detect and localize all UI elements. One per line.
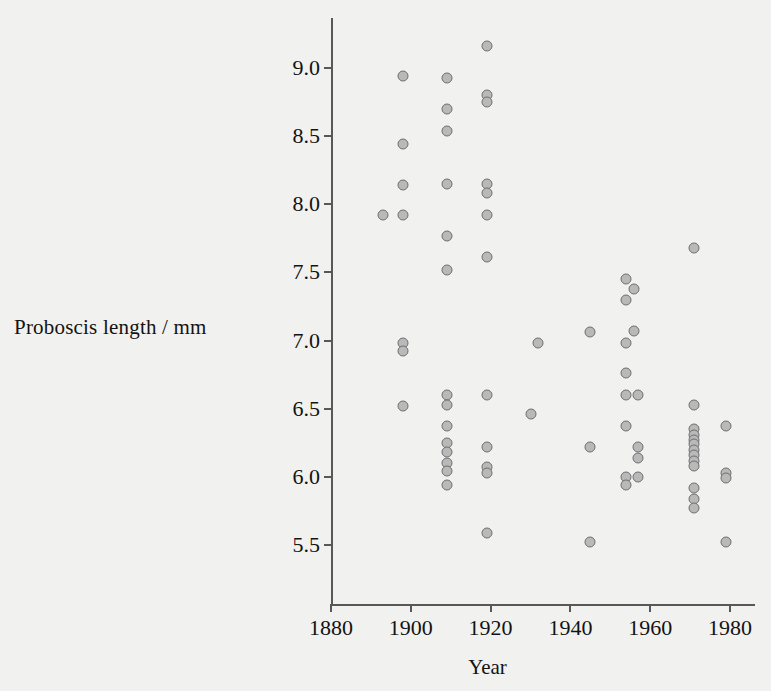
scatter-point — [481, 188, 492, 199]
scatter-point — [481, 390, 492, 401]
x-axis-tick — [410, 604, 412, 612]
scatter-point — [481, 441, 492, 452]
scatter-point — [397, 400, 408, 411]
scatter-point — [621, 390, 632, 401]
x-axis-tick-label: 1980 — [708, 615, 752, 641]
y-axis-tick-label: 5.5 — [264, 532, 320, 558]
scatter-point — [585, 537, 596, 548]
y-axis-tick-label: 8.5 — [264, 123, 320, 149]
scatter-point — [689, 242, 700, 253]
x-axis-tick — [569, 604, 571, 612]
scatter-point — [629, 326, 640, 337]
scatter-point — [397, 139, 408, 150]
scatter-point — [721, 421, 732, 432]
x-axis-tick-label: 1920 — [469, 615, 513, 641]
x-axis-tick — [649, 604, 651, 612]
scatter-point — [633, 452, 644, 463]
scatter-point — [397, 71, 408, 82]
scatter-point — [441, 178, 452, 189]
scatter-point — [621, 421, 632, 432]
scatter-point — [441, 480, 452, 491]
plot-area — [331, 20, 751, 605]
y-axis-tick-label: 6.5 — [264, 396, 320, 422]
scatter-point — [441, 72, 452, 83]
scatter-point — [689, 399, 700, 410]
scatter-point — [441, 466, 452, 477]
scatter-point — [621, 338, 632, 349]
scatter-point — [441, 264, 452, 275]
scatter-point — [441, 230, 452, 241]
scatter-point — [481, 97, 492, 108]
scatter-point — [629, 283, 640, 294]
x-axis-tick — [490, 604, 492, 612]
scatter-point — [377, 210, 388, 221]
scatter-point — [397, 346, 408, 357]
x-axis-tick — [729, 604, 731, 612]
y-axis-tick-label: 7.5 — [264, 259, 320, 285]
scatter-point — [585, 327, 596, 338]
scatter-plot-figure: Proboscis length / mm Year 5.56.06.57.07… — [0, 0, 771, 691]
scatter-point — [689, 460, 700, 471]
x-axis-title: Year — [0, 655, 771, 680]
x-axis-title-text: Year — [468, 655, 507, 679]
scatter-point — [481, 527, 492, 538]
scatter-point — [481, 467, 492, 478]
scatter-point — [481, 210, 492, 221]
scatter-point — [481, 252, 492, 263]
scatter-point — [585, 441, 596, 452]
scatter-point — [633, 390, 644, 401]
scatter-point — [441, 103, 452, 114]
x-axis-tick-label: 1900 — [389, 615, 433, 641]
x-axis-tick-label: 1880 — [309, 615, 353, 641]
scatter-point — [533, 338, 544, 349]
scatter-point — [633, 441, 644, 452]
y-axis-title: Proboscis length / mm — [14, 315, 207, 340]
scatter-point — [397, 180, 408, 191]
scatter-point — [441, 447, 452, 458]
scatter-point — [441, 125, 452, 136]
scatter-point — [689, 482, 700, 493]
scatter-point — [481, 41, 492, 52]
x-axis-tick — [330, 604, 332, 612]
scatter-point — [689, 503, 700, 514]
y-axis-tick-label: 7.0 — [264, 328, 320, 354]
scatter-point — [397, 210, 408, 221]
y-axis-tick-label: 8.0 — [264, 191, 320, 217]
y-axis-tick-label: 9.0 — [264, 55, 320, 81]
scatter-point — [525, 409, 536, 420]
scatter-point — [621, 368, 632, 379]
scatter-point — [441, 399, 452, 410]
x-axis-tick-label: 1960 — [628, 615, 672, 641]
scatter-point — [621, 480, 632, 491]
y-axis-tick-label: 6.0 — [264, 464, 320, 490]
scatter-point — [721, 473, 732, 484]
scatter-point — [633, 471, 644, 482]
x-axis-tick-label: 1940 — [548, 615, 592, 641]
scatter-point — [621, 274, 632, 285]
scatter-point — [621, 294, 632, 305]
scatter-point — [441, 421, 452, 432]
scatter-point — [721, 537, 732, 548]
